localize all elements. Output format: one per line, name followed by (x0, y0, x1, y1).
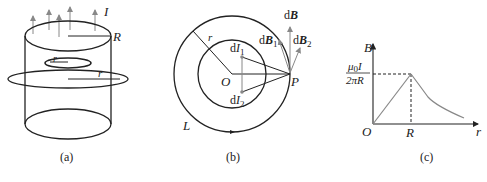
label-y-axis-B: B (364, 40, 372, 55)
label-r: r (208, 31, 213, 43)
caption-b: (b) (226, 150, 240, 164)
caption-c: (c) (420, 150, 433, 164)
label-O: O (221, 74, 231, 89)
label-dB2: dB2 (293, 33, 312, 49)
fraction-denominator: 2πR (346, 74, 364, 86)
curve-inverse-decay (411, 74, 464, 118)
figure-c-graph: B r O R μ0I 2πR (c) (346, 40, 482, 164)
inner-loop (45, 58, 91, 68)
point-dI2 (240, 90, 244, 94)
label-current-I: I (103, 4, 109, 19)
figure-a-cylinder: I R r r (a) (8, 4, 128, 164)
label-r-inner: r (53, 53, 57, 64)
label-x-axis-r: r (476, 124, 482, 139)
label-x-tick-R: R (405, 125, 414, 140)
fraction-numerator: μ0I (347, 60, 363, 74)
label-L: L (182, 118, 190, 133)
label-dI2: dI2 (230, 93, 245, 109)
label-y-tick-fraction: μ0I 2πR (346, 60, 370, 86)
outer-loop-front (8, 79, 128, 88)
loop-direction-arrow (230, 130, 235, 134)
figure-b-cross-section: r O P L dI1 dI2 dB dB1 dB2 (b) (174, 8, 312, 164)
label-R: R (112, 29, 121, 44)
label-origin-O: O (362, 124, 372, 139)
caption-a: (a) (60, 150, 73, 164)
vector-dB1 (279, 40, 290, 73)
label-dB: dB (284, 8, 298, 22)
figure-canvas: I R r r (a) r O P L dI1 dI2 (0, 0, 487, 182)
label-r-outer: r (98, 67, 103, 79)
vector-dB2 (290, 48, 300, 73)
curve-linear-rise (373, 74, 411, 124)
label-dI1: dI1 (230, 41, 245, 57)
outer-loop-back (8, 70, 128, 79)
cylinder-bottom (25, 109, 111, 139)
label-P: P (290, 74, 299, 89)
